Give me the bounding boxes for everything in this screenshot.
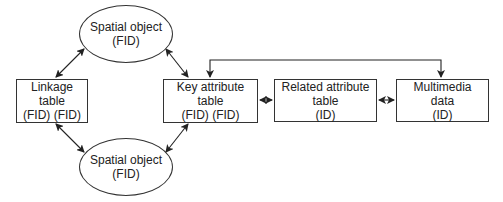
node-label-line2: data	[431, 94, 454, 108]
node-spatial-object-bottom: Spatial object (FID)	[79, 138, 173, 196]
node-key-attribute-table: Key attribute table (FID) (FID)	[163, 79, 258, 123]
node-label-line2: table	[197, 94, 223, 108]
edge-spatialbottom-key	[166, 124, 188, 152]
node-label-line2: (FID)	[112, 167, 139, 181]
node-related-attribute-table: Related attribute table (ID)	[274, 79, 377, 122]
node-label-line3: (ID)	[316, 108, 336, 122]
node-label-line2: table	[312, 94, 338, 108]
node-label-line3: (FID) (FID)	[23, 108, 81, 122]
node-label-line1: Spatial object	[90, 153, 162, 167]
edge-spatialtop-key	[166, 49, 188, 77]
node-label-line1: Multimedia	[413, 80, 471, 94]
node-label-line1: Linkage	[31, 80, 73, 94]
edge-key-multimedia-elbow	[210, 60, 441, 77]
node-multimedia-data: Multimedia data (ID)	[396, 79, 489, 122]
node-label-line3: (FID) (FID)	[182, 108, 240, 122]
node-label-line2: (FID)	[112, 34, 139, 48]
node-label-line1: Spatial object	[90, 20, 162, 34]
node-linkage-table: Linkage table (FID) (FID)	[16, 79, 88, 123]
edge-spatialtop-linkage	[56, 49, 84, 77]
node-label-line1: Related attribute	[281, 80, 369, 94]
node-label-line3: (ID)	[433, 108, 453, 122]
edge-spatialbottom-linkage	[56, 124, 84, 152]
node-spatial-object-top: Spatial object (FID)	[79, 5, 173, 63]
node-label-line1: Key attribute	[177, 80, 244, 94]
node-label-line2: table	[39, 94, 65, 108]
